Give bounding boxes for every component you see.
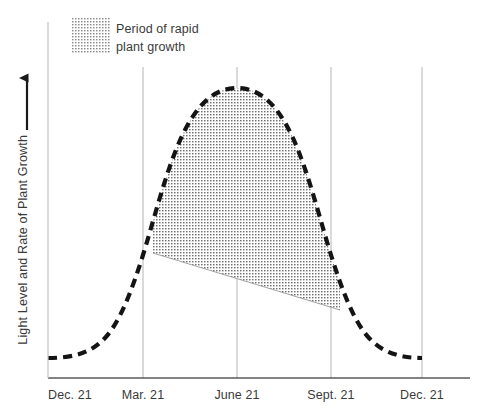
- x-tick-label-dec-21-right: Dec. 21: [400, 388, 444, 402]
- legend-label-line-1: Period of rapid: [116, 22, 199, 36]
- legend-stipple-swatch: [72, 18, 111, 53]
- x-tick-label-dec-21-left: Dec. 21: [48, 388, 92, 402]
- legend-label-line-2: plant growth: [116, 40, 185, 54]
- y-axis-label: Light Level and Rate of Plant Growth: [16, 135, 30, 345]
- x-tick-label-mar-21: Mar. 21: [122, 388, 164, 402]
- x-tick-label-sept-21: Sept. 21: [307, 388, 354, 402]
- x-tick-label-june-21: June 21: [214, 388, 259, 402]
- chart-container: Light Level and Rate of Plant Growth Dec…: [0, 0, 494, 417]
- plant-growth-chart: Light Level and Rate of Plant Growth Dec…: [0, 0, 494, 417]
